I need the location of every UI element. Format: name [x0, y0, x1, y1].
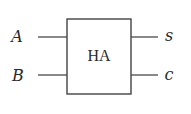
output-label-c: c: [165, 65, 174, 84]
output-label-s: s: [165, 26, 173, 45]
block-label: HA: [87, 47, 111, 64]
input-label-a: A: [9, 27, 23, 46]
diagram-canvas: HA A B s c: [0, 0, 191, 114]
half-adder-diagram: HA A B s c: [0, 0, 191, 114]
input-label-b: B: [11, 66, 24, 85]
